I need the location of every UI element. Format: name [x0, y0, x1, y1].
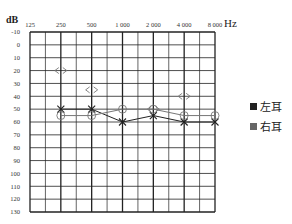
- y-tick-label: 10: [14, 54, 21, 61]
- y-tick-label: 80: [14, 144, 21, 151]
- legend-swatch-right-ear: [250, 123, 257, 130]
- x-tick-label: 8 000: [208, 21, 223, 28]
- y-tick-label: 100: [10, 170, 20, 177]
- y-tick-label: 30: [14, 80, 21, 87]
- marker-bone-left: [86, 87, 90, 93]
- x-axis-unit-label: Hz: [224, 17, 237, 29]
- y-tick-labels: -100102030405060708090100110120130: [10, 28, 20, 215]
- y-tick-label: 20: [14, 67, 21, 74]
- legend-label-right-ear: 右耳: [260, 118, 282, 134]
- y-tick-label: 0: [17, 41, 20, 48]
- legend-swatch-left-ear: [250, 103, 257, 110]
- legend: 左耳 右耳: [250, 96, 282, 136]
- legend-label-left-ear: 左耳: [260, 98, 282, 114]
- y-tick-label: 110: [10, 183, 20, 190]
- x-tick-label: 2 000: [146, 21, 161, 28]
- x-tick-label: 250: [56, 21, 66, 28]
- y-tick-label: 50: [14, 105, 21, 112]
- legend-item-right-ear: 右耳: [250, 116, 282, 136]
- y-tick-label: 90: [14, 157, 21, 164]
- x-tick-label: 500: [87, 21, 97, 28]
- y-tick-label: 60: [14, 118, 21, 125]
- y-tick-label: -10: [11, 28, 20, 35]
- x-tick-label: 1 000: [115, 21, 130, 28]
- x-tick-label: 4 000: [177, 21, 192, 28]
- y-tick-label: 120: [10, 195, 20, 202]
- y-tick-label: 70: [14, 131, 21, 138]
- x-tick-labels: 1252505001 0002 0004 0008 000: [25, 21, 222, 28]
- legend-item-left-ear: 左耳: [250, 96, 282, 116]
- marker-bone-right: [94, 87, 98, 93]
- y-axis-unit-label: dB: [6, 14, 19, 25]
- y-tick-label: 130: [10, 208, 20, 215]
- audiogram-chart: dB Hz 1252505001 0002 0004 0008 000 -100…: [0, 0, 292, 224]
- y-tick-label: 40: [14, 93, 21, 100]
- x-tick-label: 125: [25, 21, 35, 28]
